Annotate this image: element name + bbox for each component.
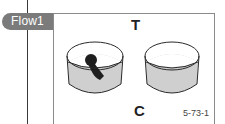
label-c: C [134, 102, 145, 119]
right-cup [145, 42, 199, 93]
left-cup [67, 42, 123, 93]
figure-id: 5-73-1 [183, 108, 209, 118]
flow-tab: Flow1 [2, 13, 53, 30]
